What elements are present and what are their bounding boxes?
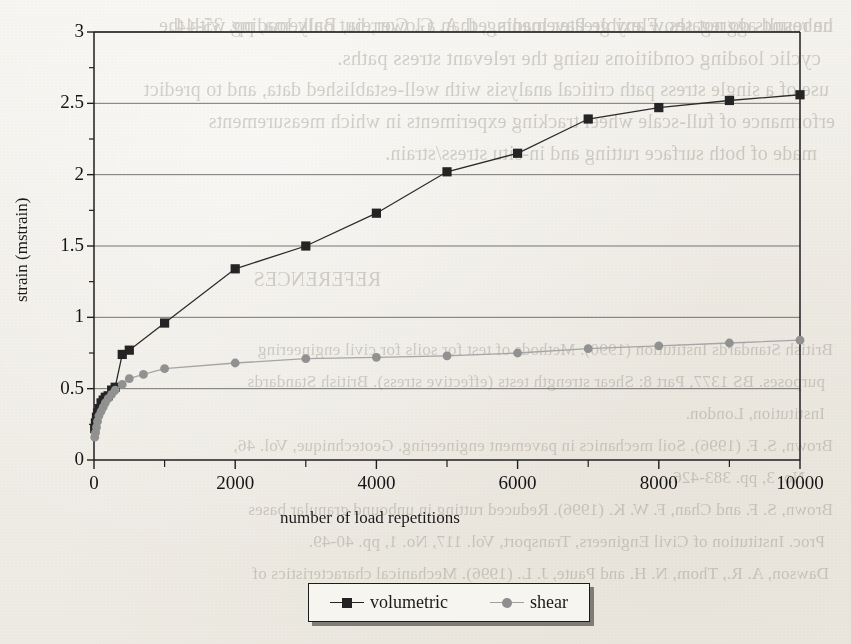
y-tick-label: 0.5 <box>38 377 84 399</box>
legend-label-shear: shear <box>530 592 568 613</box>
x-tick-label: 2000 <box>190 472 280 494</box>
legend-item-volumetric[interactable]: volumetric <box>330 592 448 613</box>
x-tick-label: 10000 <box>755 472 845 494</box>
y-tick-label: 3 <box>38 20 84 42</box>
x-tick-label: 6000 <box>473 472 563 494</box>
x-tick-label: 0 <box>49 472 139 494</box>
y-axis-title: strain (mstrain) <box>9 140 35 360</box>
y-tick-label: 2.5 <box>38 91 84 113</box>
legend-key-shear <box>490 597 524 609</box>
x-tick-label: 4000 <box>331 472 421 494</box>
plot-canvas <box>0 0 851 644</box>
chart-legend[interactable]: volumetric shear <box>308 583 590 622</box>
x-tick-label: 8000 <box>614 472 704 494</box>
legend-label-volumetric: volumetric <box>370 592 448 613</box>
y-tick-label: 1.5 <box>38 234 84 256</box>
x-axis-title: number of load repetitions <box>280 508 460 528</box>
figure-strain-vs-load-repetitions: strain (mstrain) number of load repetiti… <box>0 0 851 644</box>
y-tick-label: 1 <box>38 305 84 327</box>
legend-key-volumetric <box>330 597 364 609</box>
y-tick-label: 2 <box>38 163 84 185</box>
legend-item-shear[interactable]: shear <box>490 592 568 613</box>
y-tick-label: 0 <box>38 448 84 470</box>
